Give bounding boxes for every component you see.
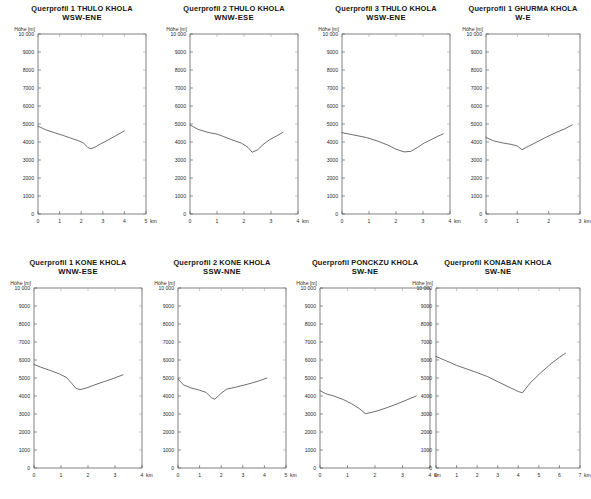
- svg-text:4000: 4000: [421, 393, 432, 399]
- profile-plot-ghurma-1: 010002000300040005000600070008000900010 …: [456, 22, 590, 240]
- svg-text:2: 2: [374, 472, 377, 478]
- svg-text:1000: 1000: [421, 447, 432, 453]
- svg-text:5000: 5000: [19, 375, 30, 381]
- profile-plot-thulo-2: 010002000300040005000600070008000900010 …: [160, 22, 308, 240]
- chart-title: Querprofil 3 THULO KHOLA: [312, 4, 460, 13]
- svg-text:4000: 4000: [327, 139, 338, 145]
- svg-text:2000: 2000: [421, 429, 432, 435]
- svg-text:5000: 5000: [421, 375, 432, 381]
- svg-text:1: 1: [58, 218, 61, 224]
- svg-text:9000: 9000: [327, 49, 338, 55]
- svg-text:0: 0: [435, 472, 438, 478]
- svg-text:6000: 6000: [471, 103, 482, 109]
- svg-text:3000: 3000: [163, 411, 174, 417]
- svg-text:0: 0: [171, 465, 174, 471]
- svg-text:km: km: [150, 218, 157, 224]
- svg-text:2: 2: [395, 218, 398, 224]
- svg-text:1000: 1000: [305, 447, 316, 453]
- svg-text:5000: 5000: [23, 121, 34, 127]
- svg-text:0: 0: [429, 465, 432, 471]
- svg-text:km: km: [302, 218, 309, 224]
- svg-text:4000: 4000: [19, 393, 30, 399]
- svg-text:7000: 7000: [471, 85, 482, 91]
- profile-curve: [190, 125, 283, 152]
- svg-text:1: 1: [216, 218, 219, 224]
- svg-text:1: 1: [346, 472, 349, 478]
- plot-area: 010002000300040005000600070008000900010 …: [312, 22, 460, 240]
- svg-text:4: 4: [141, 472, 144, 478]
- svg-text:6: 6: [558, 472, 561, 478]
- svg-text:5000: 5000: [175, 121, 186, 127]
- svg-text:5: 5: [145, 218, 148, 224]
- svg-text:6000: 6000: [305, 357, 316, 363]
- svg-text:0: 0: [189, 218, 192, 224]
- svg-text:4000: 4000: [163, 393, 174, 399]
- chart-panel-thulo-2: Querprofil 2 THULO KHOLA WNW-ESE 0100020…: [160, 4, 308, 240]
- svg-text:1: 1: [60, 472, 63, 478]
- chart-subtitle: SW-NE: [406, 267, 590, 276]
- svg-text:Höhe [m]: Höhe [m]: [14, 26, 35, 32]
- svg-text:7000: 7000: [163, 339, 174, 345]
- svg-text:9000: 9000: [23, 49, 34, 55]
- svg-text:2000: 2000: [471, 175, 482, 181]
- svg-text:5: 5: [537, 472, 540, 478]
- svg-text:1000: 1000: [163, 447, 174, 453]
- svg-text:5000: 5000: [163, 375, 174, 381]
- svg-text:Höhe [m]: Höhe [m]: [166, 26, 187, 32]
- svg-text:1: 1: [455, 472, 458, 478]
- svg-text:6000: 6000: [421, 357, 432, 363]
- svg-text:3000: 3000: [421, 411, 432, 417]
- svg-text:2000: 2000: [19, 429, 30, 435]
- profile-plot-thulo-1: 010002000300040005000600070008000900010 …: [8, 22, 156, 240]
- svg-text:4000: 4000: [471, 139, 482, 145]
- svg-text:1000: 1000: [471, 193, 482, 199]
- svg-text:0: 0: [485, 218, 488, 224]
- svg-text:8000: 8000: [471, 67, 482, 73]
- svg-text:2: 2: [80, 218, 83, 224]
- profile-plot-thulo-3: 010002000300040005000600070008000900010 …: [312, 22, 460, 240]
- svg-text:2: 2: [220, 472, 223, 478]
- chart-subtitle: WSW-ENE: [312, 13, 460, 22]
- svg-text:1000: 1000: [175, 193, 186, 199]
- svg-text:4: 4: [449, 218, 452, 224]
- svg-text:7000: 7000: [175, 85, 186, 91]
- svg-text:9000: 9000: [163, 303, 174, 309]
- svg-text:4: 4: [517, 472, 520, 478]
- svg-text:8000: 8000: [305, 321, 316, 327]
- svg-text:8000: 8000: [327, 67, 338, 73]
- svg-text:2000: 2000: [327, 175, 338, 181]
- chart-panel-thulo-1: Querprofil 1 THULO KHOLA WSW-ENE 0100020…: [8, 4, 156, 240]
- chart-panel-thulo-3: Querprofil 3 THULO KHOLA WSW-ENE 0100020…: [312, 4, 460, 240]
- plot-area: 010002000300040005000600070008000900010 …: [148, 276, 296, 494]
- svg-text:0: 0: [341, 218, 344, 224]
- svg-text:7000: 7000: [23, 85, 34, 91]
- profile-curve: [38, 126, 124, 149]
- svg-text:1: 1: [516, 218, 519, 224]
- svg-text:0: 0: [177, 472, 180, 478]
- svg-text:6000: 6000: [163, 357, 174, 363]
- svg-text:4000: 4000: [305, 393, 316, 399]
- svg-text:1000: 1000: [23, 193, 34, 199]
- chart-panel-kone-1: Querprofil 1 KONE KHOLA WNW-ESE 01000200…: [4, 258, 152, 494]
- svg-text:4000: 4000: [175, 139, 186, 145]
- svg-text:6000: 6000: [23, 103, 34, 109]
- svg-text:1: 1: [368, 218, 371, 224]
- svg-text:Höhe [m]: Höhe [m]: [412, 280, 433, 286]
- chart-panel-kone-2: Querprofil 2 KONE KHOLA SSW-NNE 01000200…: [148, 258, 296, 494]
- svg-text:0: 0: [37, 218, 40, 224]
- svg-text:6000: 6000: [19, 357, 30, 363]
- svg-text:1000: 1000: [327, 193, 338, 199]
- svg-text:Höhe [m]: Höhe [m]: [10, 280, 31, 286]
- profile-curve: [486, 125, 572, 150]
- chart-subtitle: WNW-ESE: [4, 267, 152, 276]
- svg-text:4: 4: [123, 218, 126, 224]
- svg-text:8000: 8000: [163, 321, 174, 327]
- profile-plot-kone-1: 010002000300040005000600070008000900010 …: [4, 276, 152, 494]
- svg-text:0: 0: [335, 211, 338, 217]
- svg-text:3000: 3000: [471, 157, 482, 163]
- svg-text:Höhe [m]: Höhe [m]: [318, 26, 339, 32]
- svg-text:0: 0: [183, 211, 186, 217]
- chart-title: Querprofil 1 THULO KHOLA: [8, 4, 156, 13]
- svg-text:3: 3: [241, 472, 244, 478]
- svg-text:3: 3: [270, 218, 273, 224]
